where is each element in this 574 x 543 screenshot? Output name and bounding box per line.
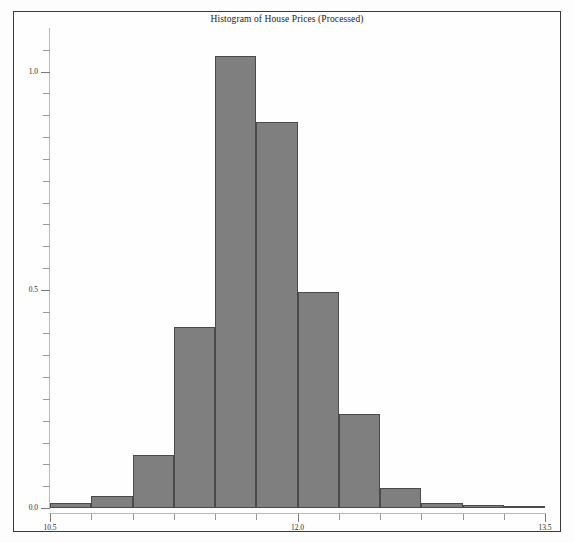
y-axis-tick-label: 1.0 <box>8 67 38 76</box>
histogram-bar <box>504 506 545 508</box>
y-axis-minor-tick <box>43 377 50 378</box>
histogram-bar <box>463 505 504 508</box>
y-axis-tick-label: 0.0 <box>8 503 38 512</box>
x-axis-minor-tick <box>463 514 464 520</box>
y-axis-minor-tick <box>43 421 50 422</box>
y-axis-minor-tick <box>43 268 50 269</box>
x-axis-tick-label: 10.5 <box>30 523 70 532</box>
y-axis-minor-tick <box>43 486 50 487</box>
histogram-bar <box>256 122 297 508</box>
y-axis-minor-tick <box>43 443 50 444</box>
x-axis-minor-tick <box>91 514 92 520</box>
histogram-bar <box>298 292 339 508</box>
x-axis-major-tick <box>298 514 299 522</box>
y-axis-minor-tick <box>43 137 50 138</box>
y-axis-major-tick <box>41 72 50 73</box>
histogram-bar <box>133 455 174 508</box>
x-axis-minor-tick <box>504 514 505 520</box>
x-axis-minor-tick <box>339 514 340 520</box>
y-axis-minor-tick <box>43 115 50 116</box>
x-axis-major-tick <box>50 514 51 522</box>
histogram-bar <box>339 414 380 508</box>
x-axis-tick-label: 12.0 <box>278 523 318 532</box>
x-axis-minor-tick <box>421 514 422 520</box>
y-axis-minor-tick <box>43 246 50 247</box>
histogram-bar <box>91 496 132 508</box>
y-axis-minor-tick <box>43 464 50 465</box>
histogram-bar <box>50 503 91 508</box>
histogram-bar <box>174 327 215 508</box>
y-axis-minor-tick <box>43 355 50 356</box>
y-axis-minor-tick <box>43 181 50 182</box>
y-axis-minor-tick <box>43 93 50 94</box>
y-axis-minor-tick <box>43 159 50 160</box>
y-axis-minor-tick <box>43 312 50 313</box>
x-axis-minor-tick <box>380 514 381 520</box>
histogram-bar <box>215 56 256 508</box>
y-axis-major-tick <box>41 508 50 509</box>
y-axis-minor-tick <box>43 333 50 334</box>
y-axis-tick-label: 0.5 <box>8 285 38 294</box>
y-axis-minor-tick <box>43 50 50 51</box>
y-axis-minor-tick <box>43 203 50 204</box>
x-axis-minor-tick <box>256 514 257 520</box>
x-axis-major-tick <box>545 514 546 522</box>
histogram-bar <box>421 503 462 508</box>
chart-title: Histogram of House Prices (Processed) <box>0 14 574 24</box>
y-axis-minor-tick <box>43 399 50 400</box>
y-axis-minor-tick <box>43 224 50 225</box>
x-axis-tick-label: 13.5 <box>525 523 565 532</box>
y-axis-major-tick <box>41 290 50 291</box>
x-axis-minor-tick <box>133 514 134 520</box>
histogram-bars <box>50 28 545 508</box>
figure-canvas: Histogram of House Prices (Processed) 0.… <box>0 0 574 543</box>
x-axis-minor-tick <box>215 514 216 520</box>
histogram-bar <box>380 488 421 508</box>
plot-area <box>50 28 545 508</box>
x-axis-minor-tick <box>174 514 175 520</box>
